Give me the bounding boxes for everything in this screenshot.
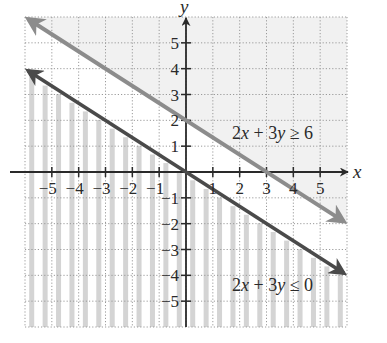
inequality-graph: −5−4−3−2−11234554321−1−2−3−4−5 x y 2x + … <box>0 0 387 343</box>
y-tick-label: 3 <box>171 86 180 105</box>
y-tick-label: −4 <box>161 266 180 285</box>
inequality-label-upper: 2x + 3y ≥ 6 <box>232 123 313 143</box>
x-tick-label: −2 <box>119 179 137 198</box>
x-tick-label: 4 <box>289 179 298 198</box>
y-tick-label: −3 <box>161 241 179 260</box>
shade-stripe <box>137 146 142 327</box>
y-tick-label: 2 <box>171 111 180 130</box>
x-tick-label: 3 <box>262 179 271 198</box>
shade-stripe <box>244 215 249 327</box>
y-tick-label: 4 <box>171 60 180 79</box>
x-tick-label: −4 <box>66 179 85 198</box>
shade-stripe <box>123 137 128 327</box>
y-axis-label: y <box>178 0 189 17</box>
shade-stripe <box>43 86 48 327</box>
x-tick-label: −5 <box>39 179 57 198</box>
shade-stripe <box>217 198 222 327</box>
shade-stripe <box>204 189 209 327</box>
x-tick-label: 1 <box>209 179 218 198</box>
y-tick-label: −2 <box>161 215 179 234</box>
x-tick-label: 2 <box>235 179 244 198</box>
shade-stripe <box>83 111 88 327</box>
y-tick-label: −1 <box>161 189 179 208</box>
y-tick-label: 5 <box>171 34 180 53</box>
shade-stripe <box>190 180 195 327</box>
x-tick-label: 5 <box>316 179 325 198</box>
shade-stripe <box>110 129 115 327</box>
shade-stripe <box>56 94 61 327</box>
x-axis-label: x <box>352 161 362 182</box>
shade-stripe <box>69 103 74 327</box>
inequality-label-lower: 2x + 3y ≤ 0 <box>232 275 313 295</box>
y-tick-label: 1 <box>171 137 180 156</box>
x-tick-label: −3 <box>92 179 110 198</box>
shade-stripe <box>29 77 34 327</box>
shade-stripe <box>230 206 235 327</box>
y-tick-label: −5 <box>161 292 179 311</box>
